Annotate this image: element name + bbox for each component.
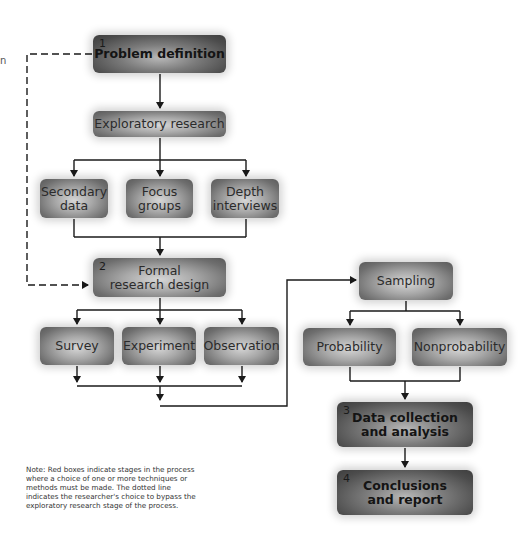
figure-note: Note: Red boxes indicate stages in the p… (26, 465, 196, 510)
node-observation: Observation (204, 327, 279, 365)
node-depth-interviews: Depth interviews (211, 179, 279, 218)
node-label: Conclusions and report (363, 479, 447, 507)
node-data-collection: 3 Data collection and analysis (337, 402, 473, 447)
node-label: Experiment (123, 339, 195, 353)
node-formal-research-design: 2 Formal research design (93, 258, 226, 297)
node-conclusions: 4 Conclusions and report (337, 470, 473, 515)
node-label: Formal research design (110, 264, 210, 292)
node-survey: Survey (40, 327, 114, 365)
node-nonprobability: Nonprobability (412, 328, 507, 366)
node-label: Problem definition (94, 47, 225, 61)
node-label: Depth interviews (213, 185, 277, 213)
node-focus-groups: Focus groups (126, 179, 193, 218)
node-probability: Probability (303, 328, 396, 366)
node-label: Survey (55, 339, 98, 353)
step-number: 4 (343, 472, 350, 486)
node-sampling: Sampling (359, 262, 453, 300)
node-experiment: Experiment (122, 327, 196, 365)
step-number: 1 (99, 37, 106, 51)
node-label: Focus groups (138, 185, 181, 213)
node-problem-definition: 1 Problem definition (93, 35, 226, 73)
node-label: Probability (316, 340, 382, 354)
node-label: Exploratory research (94, 117, 224, 131)
node-label: Sampling (377, 274, 436, 288)
step-number: 3 (343, 404, 350, 418)
step-number: 2 (99, 260, 106, 274)
node-label: Nonprobability (414, 340, 506, 354)
node-label: Data collection and analysis (352, 411, 458, 439)
node-label: Observation (203, 339, 279, 353)
node-secondary-data: Secondary data (40, 179, 108, 218)
node-exploratory-research: Exploratory research (93, 111, 226, 137)
node-label: Secondary data (41, 185, 107, 213)
